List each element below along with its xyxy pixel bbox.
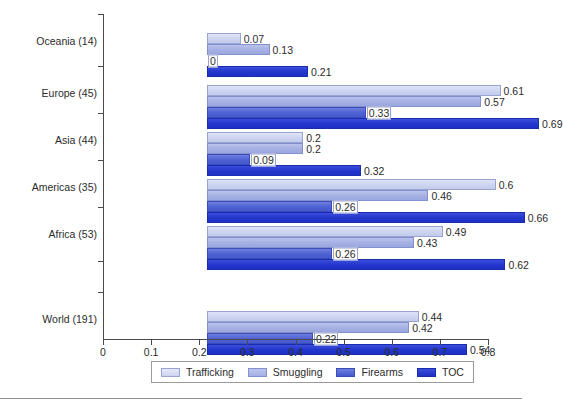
x-axis-tick	[247, 340, 248, 345]
y-axis-category-label: Oceania (14)	[36, 35, 97, 47]
bar	[207, 201, 332, 212]
plot-area: 0.070.1300.210.610.570.330.690.20.20.090…	[103, 14, 488, 339]
x-axis-tick-label: 0.8	[481, 346, 496, 358]
legend-swatch-icon	[161, 368, 180, 377]
y-axis-tick	[98, 207, 103, 208]
y-axis-tick	[98, 14, 103, 15]
bar	[207, 311, 419, 322]
y-axis-tick	[98, 292, 103, 293]
bar-value-label: 0	[208, 54, 218, 67]
bar-value-label: 0.62	[508, 259, 528, 271]
x-axis-tick	[488, 340, 489, 345]
bar	[207, 96, 481, 107]
bar-value-label: 0.07	[244, 33, 264, 45]
legend-label: Smuggling	[273, 366, 323, 378]
legend-item-firearms[interactable]: Firearms	[336, 366, 402, 378]
x-axis-tick	[344, 340, 345, 345]
legend-swatch-icon	[417, 368, 436, 377]
bar	[207, 107, 366, 118]
x-axis-tick	[440, 340, 441, 345]
bar	[207, 66, 308, 77]
legend-item-toc[interactable]: TOC	[417, 366, 464, 378]
bar-value-label: 0.13	[273, 44, 293, 56]
y-axis-category-label: Europe (45)	[42, 87, 97, 99]
bar-value-label: 0.42	[412, 322, 432, 334]
legend-label: Trafficking	[186, 366, 234, 378]
bar-value-label: 0.21	[311, 66, 331, 78]
y-axis-category-label: World (191)	[42, 313, 97, 325]
bar-value-label: 0.66	[528, 212, 548, 224]
bar-value-label: 0.61	[504, 85, 524, 97]
legend-label: Firearms	[361, 366, 402, 378]
bar	[207, 179, 496, 190]
bar-value-label: 0.46	[431, 190, 451, 202]
bar-value-label: 0.2	[306, 143, 321, 155]
bar	[207, 190, 428, 201]
bar	[207, 226, 443, 237]
bar	[207, 212, 525, 223]
bar-value-label: 0.26	[333, 200, 357, 213]
x-axis-tick-label: 0.4	[288, 346, 303, 358]
legend-item-smuggling[interactable]: Smuggling	[248, 366, 323, 378]
bar	[207, 322, 409, 333]
chart-legend: TraffickingSmugglingFirearmsTOC	[151, 361, 474, 383]
x-axis-tick-label: 0.3	[240, 346, 255, 358]
bar	[207, 248, 332, 259]
y-axis-category-label: Asia (44)	[55, 134, 97, 146]
y-axis-category-label: Africa (53)	[49, 228, 97, 240]
x-axis-tick-label: 0	[100, 346, 106, 358]
bar-value-label: 0.33	[367, 106, 391, 119]
bar-value-label: 0.09	[251, 153, 275, 166]
bar-value-label: 0.32	[364, 165, 384, 177]
y-axis-tick	[98, 160, 103, 161]
legend-swatch-icon	[336, 368, 355, 377]
bar	[207, 85, 501, 96]
bar-value-label: 0.26	[333, 247, 357, 260]
bar	[207, 259, 505, 270]
y-axis-tick	[98, 261, 103, 262]
legend-swatch-icon	[248, 368, 267, 377]
x-axis-tick	[296, 340, 297, 345]
bar	[207, 237, 414, 248]
bar	[207, 132, 303, 143]
y-axis-tick	[98, 113, 103, 114]
bar	[207, 154, 250, 165]
x-axis-tick-label: 0.2	[192, 346, 207, 358]
bar-value-label: 0.49	[446, 226, 466, 238]
legend-item-trafficking[interactable]: Trafficking	[161, 366, 234, 378]
x-axis-tick-label: 0.5	[336, 346, 351, 358]
x-axis-tick	[199, 340, 200, 345]
x-axis-tick-label: 0.6	[384, 346, 399, 358]
y-axis-line	[103, 14, 104, 339]
bar	[207, 118, 539, 129]
bar-value-label: 0.6	[499, 179, 514, 191]
bar-value-label: 0.57	[484, 96, 504, 108]
y-axis-category-label: Americas (35)	[32, 181, 97, 193]
bar-value-label: 0.43	[417, 237, 437, 249]
x-axis-tick-label: 0.1	[144, 346, 159, 358]
bar	[207, 33, 241, 44]
x-axis-tick	[392, 340, 393, 345]
y-axis-tick	[98, 66, 103, 67]
bar-value-label: 0.69	[542, 118, 562, 130]
bottom-divider-rule	[0, 398, 522, 399]
legend-label: TOC	[442, 366, 464, 378]
bar	[207, 165, 361, 176]
x-axis-tick	[103, 340, 104, 345]
x-axis-tick-label: 0.7	[433, 346, 448, 358]
x-axis-tick	[151, 340, 152, 345]
